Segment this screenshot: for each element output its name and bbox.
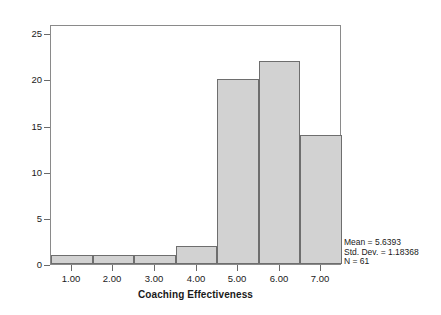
plot-area xyxy=(51,26,340,264)
statistics-annotation: Mean = 5.6393 Std. Dev. = 1.18368 N = 61 xyxy=(344,238,419,267)
y-axis-tick-label: 0 xyxy=(16,260,42,270)
x-axis-tick-label: 1.00 xyxy=(51,273,91,284)
n-label: N = 61 xyxy=(344,257,419,267)
histogram-bar xyxy=(134,255,176,264)
histogram-bar xyxy=(176,246,218,264)
x-axis-tick xyxy=(154,265,155,271)
x-axis-tick-label: 2.00 xyxy=(92,273,132,284)
y-axis-tick-label: 25 xyxy=(16,29,42,39)
y-axis-tick-label: 20 xyxy=(16,75,42,85)
x-axis-tick-label: 5.00 xyxy=(217,273,257,284)
histogram-bar xyxy=(217,79,259,264)
y-axis-tick-label-wrap: 15 xyxy=(12,122,42,132)
x-axis-tick-label: 3.00 xyxy=(134,273,174,284)
y-axis-tick-label: 5 xyxy=(16,214,42,224)
y-axis-tick-label: 10 xyxy=(16,168,42,178)
y-axis-tick xyxy=(44,265,50,266)
y-axis-tick-label-wrap: 25 xyxy=(12,29,42,39)
x-axis-title: Coaching Effectiveness xyxy=(50,289,341,300)
x-axis-tick-label: 6.00 xyxy=(259,273,299,284)
histogram-bar xyxy=(259,61,301,264)
histogram-bar xyxy=(93,255,135,264)
y-axis-tick-label-wrap: 0 xyxy=(12,260,42,270)
x-axis-tick-label: 7.00 xyxy=(300,273,340,284)
histogram-bar xyxy=(51,255,93,264)
histogram-bar xyxy=(300,135,342,264)
y-axis-tick-label-wrap: 5 xyxy=(12,214,42,224)
x-axis-tick xyxy=(71,265,72,271)
x-axis-tick-label: 4.00 xyxy=(176,273,216,284)
x-axis-tick xyxy=(196,265,197,271)
y-axis-tick-label-wrap: 20 xyxy=(12,75,42,85)
x-axis-tick xyxy=(320,265,321,271)
x-axis-tick xyxy=(279,265,280,271)
plot-frame xyxy=(50,25,341,265)
histogram-chart: Frequency 0510152025 1.002.003.004.005.0… xyxy=(0,0,441,315)
y-axis-tick-label-wrap: 10 xyxy=(12,168,42,178)
y-axis-tick-label: 15 xyxy=(16,122,42,132)
x-axis-tick xyxy=(237,265,238,271)
x-axis-tick xyxy=(112,265,113,271)
